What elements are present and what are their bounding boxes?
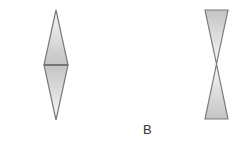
diamond-shape [44, 10, 68, 120]
figure-canvas [0, 0, 236, 147]
figure-label: B [143, 122, 152, 137]
hourglass-shape [205, 10, 228, 119]
